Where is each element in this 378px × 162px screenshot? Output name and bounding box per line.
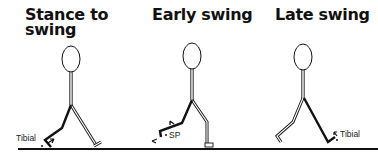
arrow-icon	[152, 139, 157, 143]
thick-leg	[45, 105, 71, 147]
thick-leg	[304, 98, 335, 142]
label-sp: SP	[169, 130, 181, 140]
label-tibial: Tibial	[16, 133, 36, 143]
figure-late-swing: Tibial	[277, 44, 360, 142]
arrow-icon	[334, 132, 337, 136]
arrow-icon	[170, 121, 174, 125]
arrow-icon	[48, 139, 54, 143]
label-tibial: Tibial	[340, 129, 360, 139]
figure-stance-to-swing: Tibial	[16, 46, 101, 147]
gait-diagram: Tibial SP Tibial	[0, 0, 378, 162]
figure-early-swing: SP	[152, 43, 213, 147]
